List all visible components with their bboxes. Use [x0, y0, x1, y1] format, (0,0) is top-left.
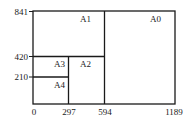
y-axis-tick-210: 210 — [3, 73, 28, 82]
region-label-a2: A2 — [80, 60, 91, 69]
y-axis-tick-420: 420 — [3, 53, 28, 62]
region-label-a0: A0 — [150, 15, 161, 24]
region-label-a1: A1 — [80, 15, 91, 24]
rectangle-subdivision-figure: A0 A1 A2 A3 A4 841 420 210 0 297 594 118… — [0, 0, 195, 126]
region-label-a4: A4 — [54, 81, 65, 90]
x-axis-tick-0: 0 — [32, 108, 37, 117]
x-axis-tick-297: 297 — [62, 108, 76, 117]
x-axis-tick-1189: 1189 — [165, 108, 183, 117]
x-axis-tick-594: 594 — [98, 108, 112, 117]
region-label-a3: A3 — [54, 60, 65, 69]
y-axis-tick-841: 841 — [3, 8, 28, 17]
